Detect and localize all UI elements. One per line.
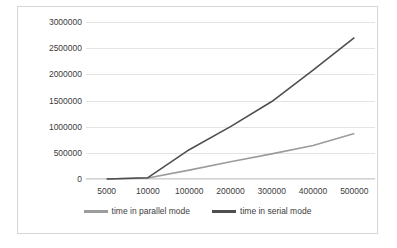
y-axis-tick-label: 500000 [20, 148, 82, 157]
x-axis-tick-label: 200000 [210, 185, 251, 199]
x-axis-tick-label: 400000 [292, 185, 333, 199]
x-axis-tick-label: 300000 [251, 185, 292, 199]
legend-item[interactable]: time in parallel mode [84, 206, 190, 216]
y-axis-tick-label: 1000000 [20, 122, 82, 131]
legend-label: time in serial mode [240, 206, 311, 216]
y-axis-tick-label: 2500000 [20, 44, 82, 53]
series-lines [86, 22, 375, 179]
y-axis-tick-label: 0 [20, 175, 82, 184]
y-axis-labels: 0500000100000015000002000000250000030000… [18, 22, 82, 179]
chart-frame: 0500000100000015000002000000250000030000… [17, 6, 378, 234]
plot-area [86, 22, 375, 179]
x-axis-labels: 500010000100000200000300000400000500000 [86, 185, 375, 199]
x-axis-tick-label: 5000 [86, 185, 127, 199]
x-axis-tick-label: 10000 [127, 185, 168, 199]
legend-label: time in parallel mode [112, 206, 190, 216]
chart-legend: time in parallel modetime in serial mode [18, 203, 377, 219]
series-line [107, 38, 355, 179]
legend-swatch [212, 210, 236, 213]
legend-swatch [84, 210, 108, 213]
x-axis-tick-label: 500000 [334, 185, 375, 199]
y-axis-tick-label: 3000000 [20, 18, 82, 27]
y-axis-tick-label: 1500000 [20, 96, 82, 105]
y-axis-tick-label: 2000000 [20, 70, 82, 79]
series-line [107, 133, 355, 179]
x-axis-tick-label: 100000 [169, 185, 210, 199]
legend-item[interactable]: time in serial mode [212, 206, 311, 216]
